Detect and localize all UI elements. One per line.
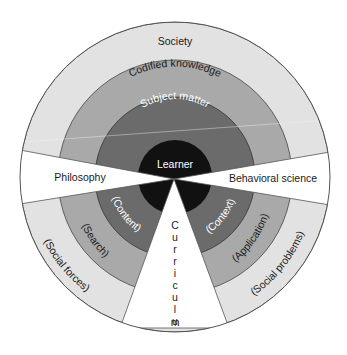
svg-text:u: u [172,231,178,243]
curriculum-letter-m: m [171,316,180,328]
society-label: Society [158,35,193,47]
philosophy-label: Philosophy [54,171,106,183]
behavioral-science-label: Behavioral science [229,172,317,184]
svg-text:l: l [174,303,176,315]
learner-label: Learner [157,158,194,170]
svg-text:r: r [173,243,177,255]
svg-text:r: r [173,255,177,267]
svg-text:c: c [172,279,177,291]
svg-text:C: C [171,219,179,231]
curriculum-diagram: Society Codified knowledge Subject matte… [0,0,347,355]
svg-text:u: u [172,291,178,303]
svg-text:i: i [174,267,176,279]
